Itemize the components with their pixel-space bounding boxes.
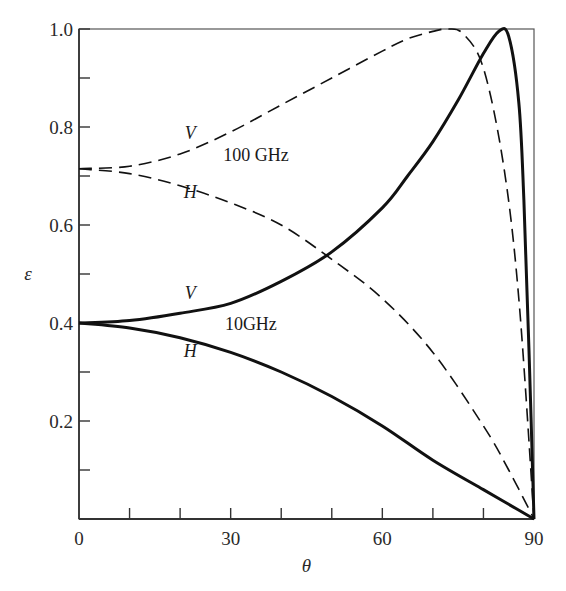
y-tick-label: 0.8 [49,117,73,138]
series-100-ghz-h [79,169,534,519]
curve-label-v: V [185,123,198,143]
curve-label-v: V [185,283,198,303]
curve-label-h: H [183,341,198,361]
x-tick-label: 60 [373,528,392,549]
x-tick-label: 90 [525,528,544,549]
axes: 0.20.40.60.81.00306090θε [24,19,543,576]
series-10ghz-h [79,323,534,519]
y-axis-title: ε [24,263,32,284]
y-tick-label: 0.2 [49,411,73,432]
emissivity-chart: 0.20.40.60.81.00306090θε V100 GHzHV10GHz… [0,0,566,591]
y-tick-label: 1.0 [49,19,73,40]
x-tick-label: 30 [221,528,240,549]
x-tick-label: 0 [74,528,84,549]
curve-label-10ghz: 10GHz [225,314,277,334]
curves [79,28,534,519]
y-tick-label: 0.4 [49,313,73,334]
series-100-ghz-v [79,29,534,519]
plot-frame [79,29,534,519]
curve-label-100-ghz: 100 GHz [223,145,289,165]
series-10ghz-v [79,28,534,519]
curve-label-h: H [183,182,198,202]
y-tick-label: 0.6 [49,215,73,236]
x-axis-title: θ [302,555,311,576]
curve-labels: V100 GHzHV10GHzH [183,123,289,361]
